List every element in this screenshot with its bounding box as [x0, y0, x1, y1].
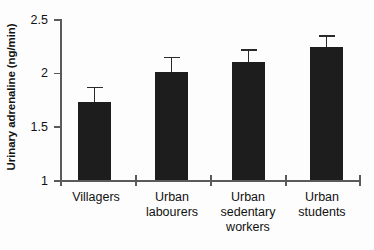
error-bar-cap-villagers: [87, 87, 103, 89]
x-axis-label-villagers: Villagers: [57, 190, 135, 205]
y-tick-mark-1: [54, 126, 61, 128]
y-tick-label-2: 2: [41, 66, 48, 80]
error-bar-cap-urban-sedentary-workers: [241, 49, 257, 51]
y-axis-line: [60, 19, 62, 181]
x-tick-mark-0: [60, 175, 62, 186]
error-bar-line-urban-sedentary-workers: [248, 49, 250, 62]
x-tick-mark-1: [135, 175, 137, 186]
x-tick-mark-3: [285, 175, 287, 186]
x-axis-label-urban-sedentary-workers: Urban sedentary workers: [208, 190, 288, 235]
y-tick-label-0: 1: [41, 174, 48, 188]
error-bar-cap-urban-students: [319, 35, 335, 37]
plot-area: 1 1.5 2 2.5 V: [0, 0, 374, 250]
bar-urban-sedentary-workers: [232, 62, 265, 180]
x-tick-mark-2: [210, 175, 212, 186]
bar-urban-labourers: [155, 72, 188, 180]
bar-chart-figure: Urinary adrenaline (ng/min) 1 1.5 2 2.5: [0, 0, 374, 250]
error-bar-line-villagers: [94, 87, 96, 102]
bar-urban-students: [310, 47, 343, 180]
y-tick-mark-3: [54, 19, 61, 21]
error-bar-line-urban-labourers: [171, 57, 173, 72]
x-tick-mark-4: [359, 175, 361, 186]
bar-villagers: [78, 102, 111, 180]
error-bar-line-urban-students: [326, 35, 328, 47]
x-axis-label-urban-students: Urban students: [283, 190, 361, 220]
y-tick-label-1: 1.5: [31, 120, 48, 134]
y-tick-label-3: 2.5: [31, 13, 48, 27]
error-bar-cap-urban-labourers: [164, 57, 180, 59]
x-axis-label-urban-labourers: Urban labourers: [133, 190, 211, 220]
y-tick-mark-2: [54, 73, 61, 75]
